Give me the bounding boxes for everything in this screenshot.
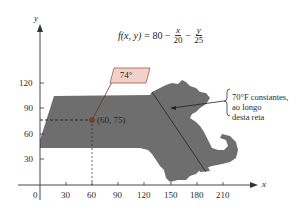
fraction-denominator: 20 [174,36,183,45]
region-shape [40,80,238,182]
function-formula: f(x, y) = 80 − x 20 − y 25 [118,26,203,45]
temperature-tag-label: 74° [111,68,141,82]
y-tick-label: 90 [24,103,33,113]
x-tick-label: 0 [33,190,38,200]
x-tick-label: 120 [137,190,151,200]
annotation-line-3: desta reta [232,112,288,122]
y-tick-label: 120 [19,78,33,88]
annotation-line-2: ao longo [232,102,288,112]
x-axis-label: x [262,179,266,189]
formula-equals: = 80 − [144,30,170,41]
annotation-bracket [224,89,230,116]
isotherm-annotation: 70°F constantes, ao longo desta reta [232,92,288,122]
formula-fraction-y: y 25 [194,26,203,45]
y-tick-label: 30 [24,154,33,164]
y-axis-arrow-icon [37,24,43,32]
x-axis-arrow-icon [250,182,258,188]
x-tick-label: 180 [190,190,204,200]
x-tick-label: 150 [164,190,178,200]
formula-fraction-x: x 20 [174,26,183,45]
y-tick-label: 60 [24,129,33,139]
fraction-denominator: 25 [194,36,203,45]
formula-minus: − [186,30,192,41]
point-label: (60, 75) [97,115,126,125]
x-tick-label: 60 [87,190,96,200]
y-axis-label: y [34,13,38,23]
x-tick-label: 210 [216,190,230,200]
annotation-line-1: 70°F constantes, [232,92,288,102]
data-point [89,117,95,123]
x-tick-label: 30 [61,190,70,200]
formula-lhs: f(x, y) [118,30,141,41]
x-tick-label: 90 [113,190,122,200]
